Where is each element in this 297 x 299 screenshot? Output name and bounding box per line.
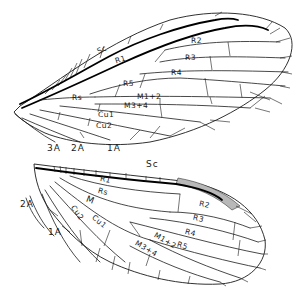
hindwing-label-r1: R1 bbox=[99, 175, 111, 185]
hindwing-label-2a: 2A bbox=[20, 200, 34, 209]
forewing-label-m34: M3+4 bbox=[124, 102, 148, 110]
forewing-marginal-forks bbox=[255, 22, 292, 112]
hindwing-label-r3: R3 bbox=[192, 214, 204, 224]
forewing-label-m12: M1+2 bbox=[137, 93, 161, 101]
forewing-label-r3: R3 bbox=[185, 54, 196, 62]
forewing-label-rs: Rs bbox=[72, 94, 82, 102]
forewing-outline bbox=[14, 13, 292, 145]
forewing-label-r2: R2 bbox=[191, 37, 202, 45]
forewing-label-2a: 2A bbox=[71, 144, 85, 153]
hindwing bbox=[26, 164, 268, 286]
forewing-label-1a: 1A bbox=[107, 144, 121, 153]
forewing bbox=[14, 12, 292, 145]
hindwing-label-1a: 1A bbox=[48, 228, 62, 237]
forewing-vein-sc bbox=[20, 19, 238, 105]
wing-venation-diagram: Sc R1 R2 R3 R4 R5 Rs M1+2 M3+4 Cu1 Cu2 3… bbox=[0, 0, 297, 299]
hindwing-label-sc: Sc bbox=[146, 160, 159, 169]
forewing-label-cu1: Cu1 bbox=[98, 111, 114, 119]
hindwing-label-rs: Rs bbox=[97, 187, 109, 197]
hindwing-label-r2: R2 bbox=[198, 200, 210, 210]
forewing-label-cu2: Cu2 bbox=[96, 122, 112, 130]
forewing-label-r5: R5 bbox=[123, 80, 134, 88]
forewing-label-3a: 3A bbox=[47, 144, 61, 153]
forewing-label-r4: R4 bbox=[171, 69, 182, 77]
